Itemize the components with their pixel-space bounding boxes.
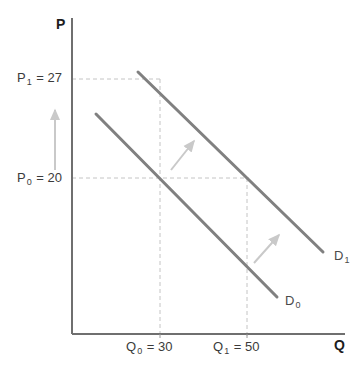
p1-equals: = (33, 70, 48, 85)
quantity-label-q1: Q1 = 50 (213, 340, 259, 353)
d1-subscript: 1 (343, 255, 350, 265)
p0-value: 20 (48, 170, 62, 185)
demand-shift-arrow-lower (254, 235, 279, 263)
quantity-label-q0: Q0 = 30 (126, 340, 172, 353)
price-label-p1: P1 = 27 (17, 71, 62, 84)
q1-value: 50 (245, 339, 259, 354)
q0-value: 30 (158, 339, 172, 354)
q1-subscript: 1 (223, 346, 230, 356)
d0-symbol: D (285, 293, 294, 308)
demand-curve-d1 (138, 72, 323, 252)
q1-equals: = (230, 339, 245, 354)
price-label-p0: P0 = 20 (17, 171, 62, 184)
y-axis-label: P (56, 17, 65, 31)
p0-symbol: P (17, 170, 26, 185)
q0-symbol: Q (126, 339, 136, 354)
p0-subscript: 0 (26, 177, 33, 187)
p1-value: 27 (48, 70, 62, 85)
demand-curves (96, 72, 323, 297)
chart-canvas (0, 0, 359, 370)
q1-symbol: Q (213, 339, 223, 354)
d0-subscript: 0 (294, 300, 301, 310)
demand-curve-d0 (96, 114, 277, 297)
p1-subscript: 1 (26, 77, 33, 87)
x-axis-label: Q (334, 338, 345, 352)
q0-equals: = (143, 339, 158, 354)
curve-label-d0: D0 (285, 294, 301, 307)
d1-symbol: D (334, 248, 343, 263)
demand-shift-arrow-upper (171, 141, 194, 170)
curve-label-d1: D1 (334, 249, 350, 262)
p0-equals: = (33, 170, 48, 185)
p1-symbol: P (17, 70, 26, 85)
q0-subscript: 0 (136, 346, 143, 356)
demand-shift-chart: P Q P1 = 27 P0 = 20 Q0 = 30 Q1 = 50 D1 D… (0, 0, 359, 370)
